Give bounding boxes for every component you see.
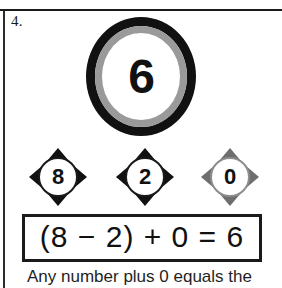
worksheet-problem-panel: 4. 6 8 2 0 — [0, 0, 282, 288]
answer-circle: 6 — [86, 17, 196, 136]
problem-number-label: 4. — [11, 13, 23, 30]
number-diamond-3-value: 0 — [201, 148, 259, 206]
problem-caption: Any number plus 0 equals the — [27, 266, 277, 288]
number-diamond-2: 2 — [116, 148, 174, 206]
answer-circle-value: 6 — [86, 17, 196, 136]
number-diamond-1: 8 — [29, 148, 87, 206]
number-diamond-3: 0 — [201, 148, 259, 206]
panel-top-rule — [0, 9, 282, 11]
number-diamond-row: 8 2 0 — [0, 148, 282, 206]
number-diamond-1-value: 8 — [29, 148, 87, 206]
equation-text: (8 − 2) + 0 = 6 — [40, 220, 244, 254]
equation-box: (8 − 2) + 0 = 6 — [22, 214, 262, 262]
number-diamond-2-value: 2 — [116, 148, 174, 206]
